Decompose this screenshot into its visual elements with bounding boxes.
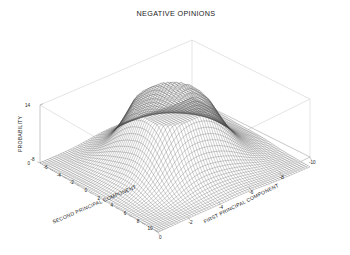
page-title: NEGATIVE OPINIONS	[137, 9, 216, 18]
y-tick-label: -8	[30, 157, 35, 162]
y-tick-label: -4	[57, 173, 62, 178]
y-tick-label: -2	[70, 180, 75, 185]
z-tick-label: 14	[25, 103, 31, 108]
y-tick-label: 4	[111, 203, 114, 208]
y-tick-mark	[37, 162, 40, 163]
x-tick-label: -8	[280, 175, 285, 180]
y-tick-label: 6	[124, 211, 127, 216]
x-tick-label: -10	[309, 160, 316, 165]
x-tick-label: -2	[189, 220, 194, 225]
z-tick-mark	[40, 104, 43, 105]
y-tick-label: 0	[84, 188, 87, 193]
y-tick-label: 8	[137, 219, 140, 224]
y-tick-label: 10	[147, 226, 153, 231]
x-tick-label: 0	[159, 235, 162, 240]
z-axis-title: PROBABILITY	[17, 116, 23, 153]
figure-canvas: NEGATIVE OPINIONS 14 0 PROBABILITY -8-6-…	[0, 0, 350, 255]
y-tick-label: -6	[44, 165, 49, 170]
surface-plot: NEGATIVE OPINIONS 14 0 PROBABILITY -8-6-…	[0, 0, 350, 255]
